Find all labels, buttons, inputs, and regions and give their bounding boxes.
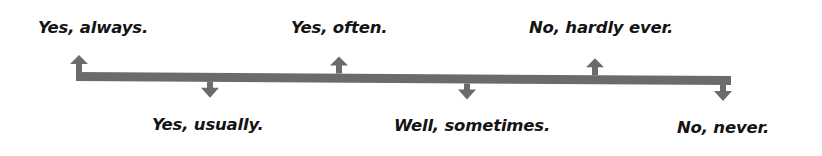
down-arrow-icon (201, 82, 219, 98)
label-yes-always: Yes, always. (38, 20, 148, 37)
up-arrow-icon (70, 55, 88, 72)
frequency-scale-diagram: Yes, always. Yes, usually. Yes, often. W… (0, 0, 822, 156)
scale-bar (76, 72, 731, 85)
label-no-never: No, never. (677, 120, 769, 137)
up-arrow-icon (586, 58, 604, 75)
down-arrow-icon (458, 83, 476, 99)
label-no-hardly-ever: No, hardly ever. (529, 20, 673, 37)
label-well-sometimes: Well, sometimes. (394, 118, 550, 135)
label-yes-often: Yes, often. (291, 20, 387, 37)
down-arrow-icon (714, 85, 732, 101)
up-arrow-icon (330, 57, 348, 74)
label-yes-usually: Yes, usually. (152, 117, 264, 134)
